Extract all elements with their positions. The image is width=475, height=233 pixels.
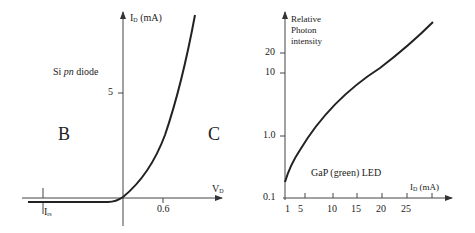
right-x-tick: 1 <box>285 203 290 214</box>
region-c-label: C <box>208 124 220 145</box>
right-x-tick: 10 <box>327 203 337 214</box>
right-x-tick: 5 <box>298 203 303 214</box>
left-x-axis-label: VD <box>212 183 224 194</box>
region-b-label: B <box>58 124 70 145</box>
irs-label: Irs <box>44 206 52 217</box>
right-x-tick: 15 <box>351 203 361 214</box>
right-y-tick-20: 20 <box>265 46 275 57</box>
left-chart-title: Si pn diode <box>53 66 99 77</box>
right-chart-title: GaP (green) LED <box>311 167 381 178</box>
diode-curve <box>28 15 195 202</box>
right-x-tick: 25 <box>401 203 411 214</box>
right-x-tick: 20 <box>376 203 386 214</box>
right-y-tick-1: 1.0 <box>263 129 276 140</box>
left-x-tick: 0.6 <box>157 203 170 214</box>
right-y-tick-01: 0.1 <box>263 191 276 202</box>
diagram-canvas <box>0 0 475 233</box>
right-y-tick-10: 10 <box>265 66 275 77</box>
right-x-axis-label: ID (mA) <box>410 182 439 192</box>
left-y-axis-label: ID (mA) <box>130 12 162 23</box>
right-y-axis-label: RelativePhotonintensity <box>291 14 322 47</box>
left-y-tick: 5 <box>108 86 113 97</box>
